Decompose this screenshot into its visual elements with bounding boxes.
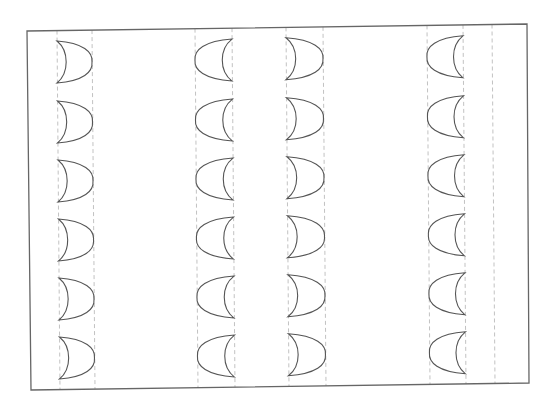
- crescent-shapes: [57, 36, 465, 379]
- crescent-shape: [428, 214, 464, 256]
- crescent-shape: [428, 155, 464, 197]
- crescent-shape: [429, 332, 465, 374]
- dashed-guide-line: [92, 30, 95, 389]
- crescent-shape: [287, 216, 324, 258]
- crescent-shape: [288, 275, 325, 317]
- dashed-guide-lines: [57, 24, 495, 389]
- dashed-guide-line: [286, 27, 289, 386]
- crescent-shape: [429, 273, 465, 315]
- crescent-shape: [58, 219, 93, 261]
- dashed-guide-line: [57, 31, 60, 390]
- dashed-guide-line: [323, 27, 326, 386]
- crescent-shape: [196, 217, 233, 259]
- crescent-shape: [59, 337, 94, 379]
- crescent-shape: [427, 36, 463, 78]
- crescent-shape: [197, 335, 234, 377]
- crescent-shape: [57, 41, 92, 83]
- crescent-shape: [197, 276, 234, 318]
- crescent-shape: [287, 157, 324, 199]
- crescent-shape: [196, 158, 233, 200]
- dashed-guide-line: [427, 25, 430, 384]
- crescent-shape: [195, 39, 232, 81]
- crescent-pattern-sheet: [0, 0, 557, 409]
- crescent-shape: [427, 96, 463, 138]
- crescent-shape: [59, 278, 94, 320]
- dashed-guide-line: [463, 25, 466, 384]
- crescent-shape: [195, 99, 232, 141]
- dashed-guide-line: [195, 29, 198, 388]
- crescent-shape: [58, 160, 93, 202]
- dashed-guide-line: [492, 24, 495, 383]
- dashed-guide-line: [232, 28, 235, 387]
- crescent-shape: [286, 38, 323, 80]
- pattern-drawing: [0, 0, 557, 409]
- crescent-shape: [288, 334, 325, 376]
- crescent-shape: [58, 101, 93, 143]
- crescent-shape: [286, 98, 323, 140]
